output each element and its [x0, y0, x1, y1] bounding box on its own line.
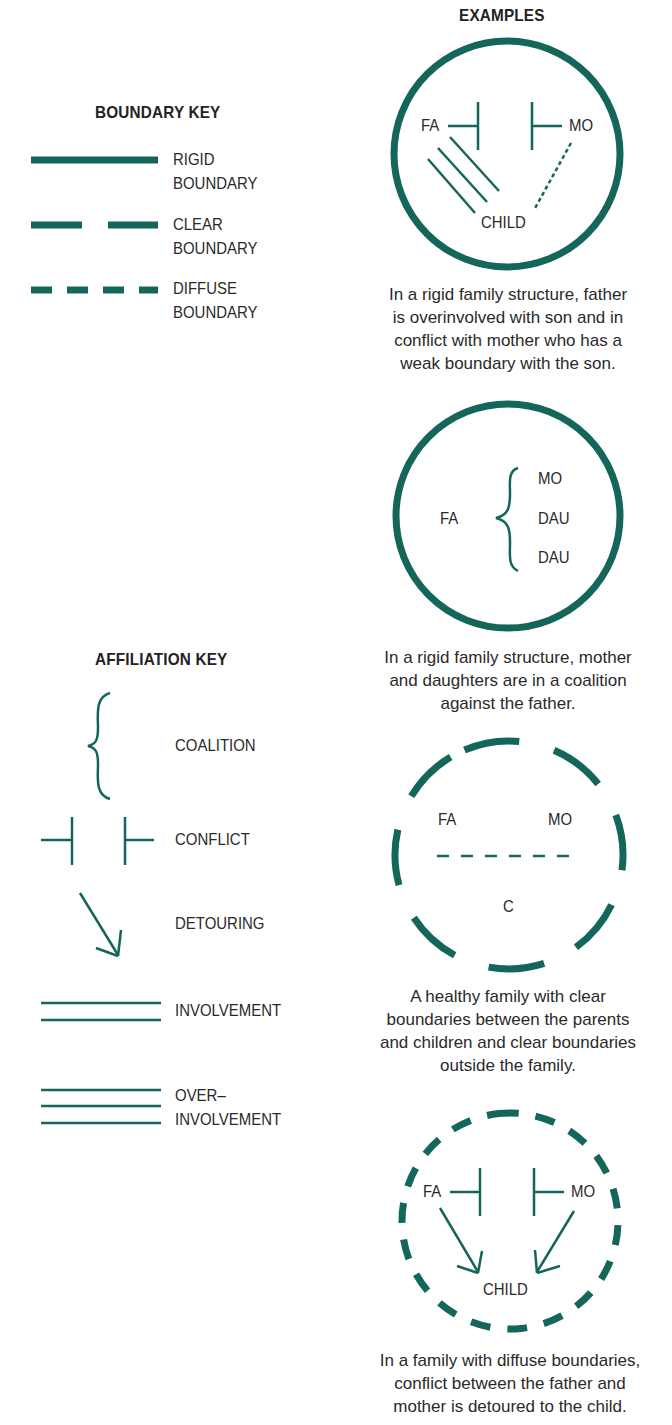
caption-line: is overinvolved with son and in	[348, 306, 668, 329]
node-child: CHILD	[483, 1280, 528, 1300]
caption-line: and children and clear boundaries	[348, 1031, 668, 1054]
clear-boundary-label: CLEAR BOUNDARY	[173, 213, 258, 261]
label-line: OVER–	[175, 1084, 281, 1108]
label-line: BOUNDARY	[173, 301, 258, 325]
diffuse-boundary-circle	[391, 1102, 628, 1339]
involvement-lines-icon	[41, 1003, 161, 1020]
node-mother: MO	[538, 469, 562, 489]
over-involvement-lines-icon	[41, 1090, 161, 1123]
node-mother: MO	[569, 116, 593, 136]
caption-line: outside the family.	[348, 1054, 668, 1077]
node-mother: MO	[548, 810, 572, 830]
rigid-boundary-label: RIGID BOUNDARY	[173, 148, 258, 196]
node-father: FA	[423, 1182, 441, 1202]
example-4-caption: In a family with diffuse boundaries, con…	[350, 1349, 670, 1418]
caption-line: boundaries between the parents	[348, 1008, 668, 1031]
label-line: RIGID	[173, 148, 258, 172]
node-child: C	[503, 897, 514, 917]
detouring-arrow-icon	[440, 1208, 482, 1273]
caption-line: In a family with diffuse boundaries,	[350, 1349, 670, 1372]
node-father: FA	[440, 509, 458, 529]
conflict-label: CONFLICT	[175, 828, 250, 852]
caption-line: A healthy family with clear	[348, 985, 668, 1008]
caption-line: weak boundary with the son.	[348, 352, 668, 375]
caption-line: In a rigid family structure, father	[348, 283, 668, 306]
label-line: CLEAR	[173, 213, 258, 237]
over-involvement-label: OVER– INVOLVEMENT	[175, 1084, 281, 1132]
node-father: FA	[421, 116, 439, 136]
example-1-caption: In a rigid family structure, father is o…	[348, 283, 668, 375]
node-daughter: DAU	[538, 548, 570, 568]
label-line: DIFFUSE	[173, 277, 258, 301]
involvement-label: INVOLVEMENT	[175, 999, 281, 1023]
caption-line: and daughters are in a coalition	[348, 669, 668, 692]
caption-line: against the father.	[348, 692, 668, 715]
conflict-icon	[448, 102, 562, 150]
examples-title: EXAMPLES	[459, 6, 545, 26]
detouring-label: DETOURING	[175, 912, 264, 936]
node-child: CHILD	[481, 213, 526, 233]
coalition-brace-icon	[88, 693, 110, 799]
diffuse-boundary-label: DIFFUSE BOUNDARY	[173, 277, 258, 325]
node-mother: MO	[571, 1182, 595, 1202]
diffuse-boundary-line	[534, 143, 571, 210]
coalition-brace-icon	[496, 468, 518, 571]
node-father: FA	[438, 810, 456, 830]
coalition-label: COALITION	[175, 734, 256, 758]
node-daughter: DAU	[538, 509, 570, 529]
label-line: BOUNDARY	[173, 237, 258, 261]
detouring-arrow-icon	[535, 1211, 574, 1273]
conflict-icon	[450, 1168, 564, 1216]
example-2-caption: In a rigid family structure, mother and …	[348, 646, 668, 715]
caption-line: conflict between the father and	[350, 1372, 670, 1395]
rigid-boundary-circle-1	[394, 41, 620, 267]
boundary-key-title: BOUNDARY KEY	[95, 103, 220, 123]
over-involvement-lines-icon	[428, 137, 499, 213]
caption-line: conflict with mother who has a	[348, 329, 668, 352]
label-line: INVOLVEMENT	[175, 1108, 281, 1132]
affiliation-key-title: AFFILIATION KEY	[95, 650, 227, 670]
label-line: BOUNDARY	[173, 172, 258, 196]
caption-line: mother is detoured to the child.	[350, 1395, 670, 1418]
caption-line: In a rigid family structure, mother	[348, 646, 668, 669]
rigid-boundary-circle-2	[396, 404, 620, 628]
example-3-caption: A healthy family with clear boundaries b…	[348, 985, 668, 1077]
detouring-arrow-icon	[80, 893, 121, 956]
conflict-icon	[41, 817, 154, 865]
